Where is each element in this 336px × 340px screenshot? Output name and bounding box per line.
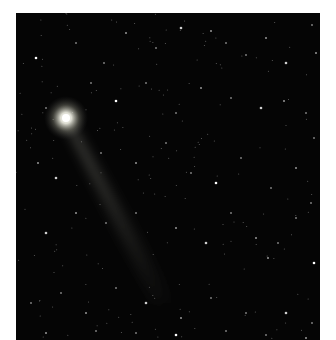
comet-photo (16, 13, 320, 340)
star (90, 82, 92, 84)
star (265, 334, 267, 336)
star (240, 157, 242, 159)
star (225, 42, 227, 44)
star (135, 162, 137, 164)
star (103, 62, 105, 64)
star (311, 322, 313, 324)
star (305, 112, 307, 114)
star (295, 167, 297, 169)
star (267, 257, 269, 259)
star (260, 107, 263, 110)
star (200, 87, 202, 89)
star (155, 47, 157, 49)
star (115, 100, 118, 103)
star (245, 54, 247, 56)
star (283, 100, 285, 102)
star (95, 330, 97, 332)
comet-nucleus (62, 114, 70, 122)
star (75, 212, 77, 214)
star (285, 312, 288, 315)
star (175, 334, 178, 337)
star (245, 312, 247, 314)
star (35, 57, 38, 60)
star (175, 227, 177, 229)
star (60, 292, 62, 294)
star (311, 24, 313, 26)
star (305, 337, 307, 339)
star (45, 232, 48, 235)
star (270, 187, 272, 189)
star (210, 30, 212, 32)
star (313, 262, 316, 265)
star (180, 27, 183, 30)
star (313, 137, 315, 139)
star (215, 182, 218, 185)
star (175, 112, 177, 114)
starfield-canvas (16, 13, 320, 340)
star (315, 52, 317, 54)
star (135, 332, 137, 334)
star (75, 42, 77, 44)
star (45, 332, 47, 334)
star (265, 37, 267, 39)
star (115, 287, 117, 289)
star (145, 82, 147, 84)
star (37, 162, 39, 164)
star (30, 302, 32, 304)
star (285, 62, 288, 65)
star (100, 152, 102, 154)
star (310, 202, 312, 204)
comet-tail (60, 113, 176, 303)
star (125, 32, 127, 34)
star (55, 177, 58, 180)
star (180, 317, 182, 319)
star (85, 312, 87, 314)
star (145, 302, 148, 305)
star (255, 237, 257, 239)
star (165, 142, 167, 144)
star (230, 212, 232, 214)
star (105, 222, 107, 224)
star (210, 297, 212, 299)
star (190, 172, 192, 174)
star (277, 242, 279, 244)
star (135, 212, 137, 214)
star (205, 242, 208, 245)
star (230, 97, 232, 99)
star (295, 217, 297, 219)
star (225, 330, 227, 332)
